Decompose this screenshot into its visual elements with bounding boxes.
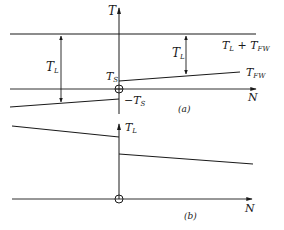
panel-b [12,124,253,203]
n-axis-label-a: N [248,92,258,103]
left-tl-label: TL [46,61,59,75]
torque-speed-diagram: T TL + TFW TFW TS −TS TL TL N (a) TL N (… [0,0,284,230]
label-sub: FW [258,45,270,53]
label-plus: + [234,39,250,52]
caption-a: (a) [178,105,190,114]
tl-axis-label: TL [125,122,137,135]
label-sub: S [141,100,146,108]
tl-right-line [119,154,253,164]
diagram-canvas [0,0,284,230]
label-sub: FW [253,72,265,80]
label-sub: S [113,76,118,84]
label-prefix: − [124,94,133,107]
label-main: T [133,94,140,107]
label-main: T [250,39,257,52]
neg-ts-label: −TS [124,95,145,108]
tfw-label: TFW [246,67,265,80]
tfw-line [119,72,240,81]
ts-label: TS [106,71,118,84]
tl-plus-tfw-label: TL + TFW [222,40,270,53]
label-main: T [46,60,54,74]
neg-ts-line [10,99,119,107]
right-tl-label: TL [172,47,185,61]
tl-left-line [12,126,119,137]
label-sub: L [132,127,137,135]
t-axis-label: T [108,5,116,17]
label-sub: L [54,67,59,75]
n-axis-label-b: N [245,203,255,214]
label-main: T [172,46,180,60]
label-sub: L [180,53,185,61]
caption-b: (b) [184,212,197,221]
